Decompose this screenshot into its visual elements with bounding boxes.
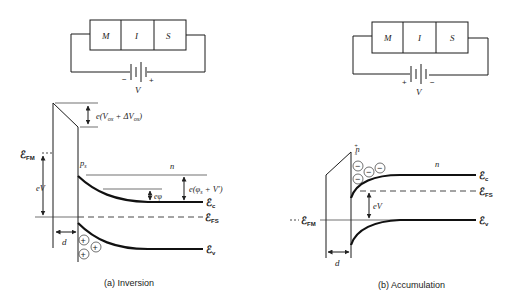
layer-metal-label: M bbox=[383, 33, 392, 43]
band-diagram-a: e(Vox + ΔVox) ℰFM eV ℰFS ps n ℰc eφ bbox=[20, 103, 223, 262]
band-diagram-b: ns+ n − − − − ℰc ℰFS eV bbox=[290, 143, 493, 268]
valence-band-label: ℰv bbox=[479, 215, 489, 227]
mis-circuit-b: M I S + − V bbox=[353, 22, 488, 97]
applied-voltage-label: eV bbox=[373, 201, 384, 211]
caption-inversion: (a) Inversion bbox=[104, 278, 154, 288]
oxide-barrier bbox=[326, 152, 351, 175]
svg-text:−: − bbox=[355, 161, 360, 171]
svg-text:+: + bbox=[81, 236, 86, 246]
svg-text:−: − bbox=[355, 174, 360, 184]
battery-voltage-label: V bbox=[416, 87, 423, 97]
polarity-plus: + bbox=[402, 78, 407, 87]
layer-semiconductor-label: S bbox=[450, 33, 455, 43]
svg-text:−: − bbox=[366, 167, 371, 177]
applied-voltage-label: eV bbox=[36, 183, 47, 193]
svg-text:+: + bbox=[93, 243, 98, 253]
surface-potential-label: e(φs + V′) bbox=[189, 184, 223, 195]
conduction-band-label: ℰc bbox=[479, 170, 489, 182]
layer-semiconductor-label: S bbox=[166, 31, 171, 41]
bulk-type-label: n bbox=[435, 159, 439, 169]
polarity-minus: − bbox=[430, 78, 435, 87]
surface-carrier-label: ps bbox=[79, 158, 87, 169]
layer-metal-label: M bbox=[101, 31, 110, 41]
panel-accumulation: M I S + − V ns+ n bbox=[290, 22, 493, 290]
caption-accumulation: (b) Accumulation bbox=[378, 280, 445, 290]
svg-text:−: − bbox=[377, 163, 382, 173]
conduction-band-curve bbox=[351, 175, 476, 198]
panel-inversion: M I S − + V e( bbox=[20, 20, 223, 288]
bulk-type-label: n bbox=[170, 161, 174, 171]
mis-circuit-a: M I S − + V bbox=[71, 20, 205, 95]
svg-text:+: + bbox=[81, 250, 86, 260]
valence-band-curve bbox=[351, 220, 476, 245]
thickness-label: d bbox=[335, 258, 340, 268]
thickness-label: d bbox=[62, 237, 67, 247]
battery-voltage-label: V bbox=[135, 85, 142, 95]
fermi-semiconductor-label: ℰFS bbox=[205, 212, 219, 224]
surface-carrier-label: ns+ bbox=[354, 143, 360, 156]
polarity-minus: − bbox=[122, 75, 127, 84]
oxide-drop-label: e(Vox + ΔVox) bbox=[96, 111, 142, 122]
battery-icon bbox=[131, 62, 146, 82]
oxide-barrier bbox=[53, 103, 78, 127]
mis-band-diagram-figure: M I S − + V e( bbox=[0, 0, 508, 298]
fermi-metal-label: ℰFM bbox=[301, 215, 316, 227]
valence-band-label: ℰv bbox=[206, 244, 216, 256]
polarity-plus: + bbox=[149, 76, 154, 85]
ephi-label: eφ bbox=[154, 192, 163, 201]
fermi-semiconductor-label: ℰFS bbox=[479, 186, 493, 198]
battery-icon bbox=[411, 64, 426, 84]
conduction-band-label: ℰc bbox=[206, 197, 216, 209]
fermi-metal-label: ℰFM bbox=[20, 149, 35, 161]
